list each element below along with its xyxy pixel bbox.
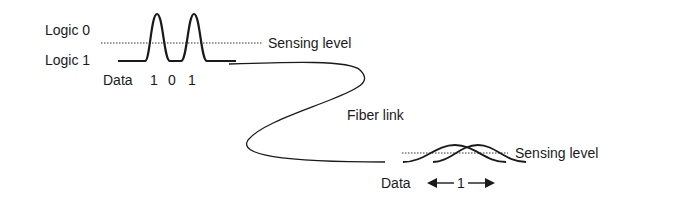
logic-1-label: Logic 1 [45, 52, 90, 68]
bit-3: 1 [188, 72, 196, 88]
arrow-right-icon [485, 178, 495, 188]
bit-1: 1 [150, 72, 158, 88]
sensing-level-label-rx: Sensing level [515, 145, 598, 161]
data-label-tx: Data [103, 72, 133, 88]
bit-2: 0 [168, 72, 176, 88]
fiber-link-label: Fiber link [347, 107, 405, 123]
fiber-dispersion-diagram: Logic 0 Logic 1 Sensing level Data 1 0 1… [0, 0, 681, 199]
sensing-level-label-tx: Sensing level [268, 35, 351, 51]
arrow-left-icon [427, 178, 437, 188]
input-pulse-train [118, 14, 236, 61]
bit-span-label: 1 [457, 175, 465, 191]
data-label-rx: Data [381, 175, 411, 191]
logic-0-label: Logic 0 [45, 22, 90, 38]
